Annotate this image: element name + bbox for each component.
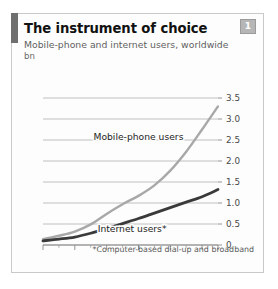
chart-plot-area: 3.53.02.52.01.51.00.50199698200002040607… xyxy=(12,64,265,250)
y-axis-tick-label: 0.5 xyxy=(226,219,240,229)
line-chart: 3.53.02.52.01.51.00.50199698200002040607… xyxy=(12,64,265,250)
y-axis-tick-label: 2.5 xyxy=(226,135,240,145)
chart-subtitle: Mobile-phone and internet users, worldwi… xyxy=(24,39,229,50)
series-line-mobile-phone-users xyxy=(43,106,218,239)
series-annotation: Mobile-phone users xyxy=(93,131,183,142)
y-axis-tick-label: 2.0 xyxy=(226,156,240,166)
page-title: The instrument of choice xyxy=(24,21,207,36)
y-axis-tick-label: 1.0 xyxy=(226,198,240,208)
chart-footnote: *Computer-based dial-up and broadband xyxy=(93,245,254,254)
y-axis-tick-label: 3.0 xyxy=(226,114,240,124)
chart-unit-label: bn xyxy=(24,51,35,61)
chart-panel: The instrument of choice 1 Mobile-phone … xyxy=(11,13,264,273)
y-axis-tick-label: 1.5 xyxy=(226,177,240,187)
series-annotation: Internet users* xyxy=(98,223,167,234)
status-badge: 1 xyxy=(240,19,256,34)
y-axis-tick-label: 3.5 xyxy=(226,93,240,103)
accent-bar xyxy=(11,13,18,43)
